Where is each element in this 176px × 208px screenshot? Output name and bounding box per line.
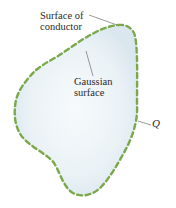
gaussian-label-line2: surface [74,87,113,98]
conductor-surface-label: Surface of conductor [40,10,83,32]
conductor-leader-line [89,15,117,25]
diagram-canvas [0,0,176,208]
conductor-body [15,25,137,196]
gaussian-label-line1: Gaussian [74,76,113,87]
gaussian-surface-label: Gaussian surface [74,76,113,98]
conductor-label-line2: conductor [40,21,83,32]
conductor-label-line1: Surface of [40,10,83,21]
charge-leader-line [138,121,151,125]
charge-label: Q [152,118,160,129]
conductor-gaussian-diagram: Surface of conductor Gaussian surface Q [0,0,176,208]
